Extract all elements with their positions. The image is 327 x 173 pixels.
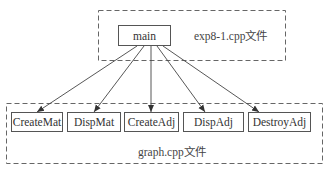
createadj-box: CreateAdj (124, 112, 179, 132)
dispadj-label: DispAdj (194, 116, 233, 128)
main-label: main (133, 30, 156, 42)
destroyadj-box: DestroyAdj (248, 112, 311, 132)
destroyadj-label: DestroyAdj (253, 116, 307, 128)
graph-file-label: graph.cpp文件 (138, 143, 206, 159)
dispmat-label: DispMat (74, 116, 114, 128)
edge-main-to-createmat (37, 46, 137, 112)
createadj-label: CreateAdj (128, 116, 175, 128)
createmat-box: CreateMat (11, 112, 63, 132)
createmat-label: CreateMat (13, 116, 62, 128)
edge-main-to-destroyadj (163, 46, 259, 112)
edge-main-to-dispmat (94, 46, 144, 112)
main-box: main (118, 25, 171, 46)
dispmat-box: DispMat (67, 112, 121, 132)
exp8-file-label: exp8-1.cpp文件 (194, 27, 267, 43)
dispadj-box: DispAdj (183, 112, 244, 132)
edge-main-to-dispadj (157, 46, 205, 112)
